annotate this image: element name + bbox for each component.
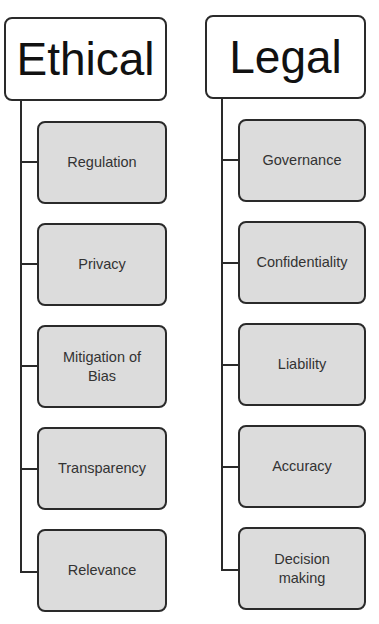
connector	[20, 468, 38, 470]
item-label: Relevance	[68, 561, 137, 580]
legal-item-accuracy: Accuracy	[238, 425, 366, 508]
legal-header: Legal	[205, 15, 366, 99]
connector	[20, 571, 38, 573]
ethical-connector-trunk	[20, 100, 22, 573]
ethical-item-transparency: Transparency	[37, 427, 167, 510]
legal-connector-trunk	[221, 98, 223, 571]
item-label: Decision making	[262, 550, 342, 588]
ethical-item-regulation: Regulation	[37, 121, 167, 204]
item-label: Governance	[263, 151, 342, 170]
connector	[221, 262, 239, 264]
item-label: Privacy	[78, 255, 126, 274]
item-label: Regulation	[67, 153, 136, 172]
connector	[221, 364, 239, 366]
connector	[20, 263, 38, 265]
ethical-title: Ethical	[16, 32, 154, 86]
legal-item-decision-making: Decision making	[238, 527, 366, 610]
legal-item-governance: Governance	[238, 119, 366, 202]
ethical-header: Ethical	[4, 17, 167, 101]
item-label: Liability	[278, 355, 326, 374]
connector	[221, 159, 239, 161]
ethical-item-mitigation-of-bias: Mitigation of Bias	[37, 325, 167, 408]
legal-title: Legal	[229, 30, 342, 84]
connector	[221, 466, 239, 468]
item-label: Accuracy	[272, 457, 332, 476]
item-label: Transparency	[58, 459, 146, 478]
legal-item-liability: Liability	[238, 323, 366, 406]
item-label: Confidentiality	[256, 253, 347, 272]
connector	[221, 569, 239, 571]
connector	[20, 161, 38, 163]
connector	[20, 365, 38, 367]
legal-item-confidentiality: Confidentiality	[238, 221, 366, 304]
item-label: Mitigation of Bias	[51, 348, 153, 386]
ethical-item-privacy: Privacy	[37, 223, 167, 306]
ethical-item-relevance: Relevance	[37, 529, 167, 612]
